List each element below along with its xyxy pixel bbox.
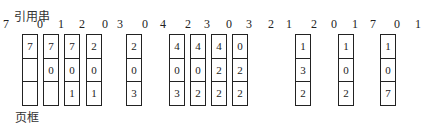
reference-item: 0 <box>391 17 403 32</box>
frame-column: 422 <box>211 34 227 106</box>
frame-cell: 0 <box>233 35 247 58</box>
frame-cell: 0 <box>87 58 101 82</box>
frame-cell: 7 <box>44 35 58 58</box>
frame-cell: 0 <box>65 58 79 82</box>
frame-column: 203 <box>126 34 142 106</box>
frame-column: 7 <box>22 34 38 106</box>
frame-cell: 3 <box>170 81 184 106</box>
frame-column: 022 <box>232 34 248 106</box>
page-frame-label: 页框 <box>15 108 39 125</box>
reference-item: 3 <box>201 17 213 32</box>
frame-cell <box>44 81 58 106</box>
reference-item: 1 <box>55 17 67 32</box>
frame-column: 132 <box>295 34 311 106</box>
reference-item: 1 <box>283 17 295 32</box>
frame-cell: 2 <box>212 58 226 82</box>
reference-item: 2 <box>76 17 88 32</box>
frame-cell: 1 <box>339 35 353 58</box>
frame-cell: 1 <box>65 81 79 106</box>
frame-cell: 4 <box>170 35 184 58</box>
reference-item: 7 <box>367 17 379 32</box>
frame-cell: 0 <box>191 58 205 82</box>
frame-column: 403 <box>169 34 185 106</box>
frame-cell: 2 <box>127 35 141 58</box>
reference-item: 0 <box>34 17 46 32</box>
reference-item: 0 <box>223 17 235 32</box>
reference-item: 3 <box>243 17 255 32</box>
reference-item: 2 <box>265 17 277 32</box>
frame-cell: 1 <box>381 35 395 58</box>
frame-cell <box>23 58 37 82</box>
frame-cell: 7 <box>23 35 37 58</box>
reference-item: 1 <box>412 17 424 32</box>
frame-cell: 7 <box>65 35 79 58</box>
reference-item: 2 <box>182 17 194 32</box>
frame-cell: 2 <box>212 81 226 106</box>
frame-cell: 2 <box>233 58 247 82</box>
frame-cell: 4 <box>212 35 226 58</box>
frame-cell: 0 <box>170 58 184 82</box>
frame-cell: 7 <box>381 81 395 106</box>
frame-cell: 2 <box>191 81 205 106</box>
reference-item: 4 <box>157 17 169 32</box>
frame-cell: 2 <box>296 81 310 106</box>
reference-item: 0 <box>99 17 111 32</box>
frame-cell: 0 <box>339 58 353 82</box>
reference-item: 0 <box>139 17 151 32</box>
reference-item: 2 <box>308 17 320 32</box>
frame-cell: 0 <box>381 58 395 82</box>
frame-cell: 2 <box>233 81 247 106</box>
reference-item: 7 <box>0 17 12 32</box>
frame-column: 701 <box>64 34 80 106</box>
reference-item: 0 <box>328 17 340 32</box>
frame-column: 70 <box>43 34 59 106</box>
frame-cell: 1 <box>87 81 101 106</box>
frame-cell <box>23 81 37 106</box>
frame-cell: 1 <box>296 35 310 58</box>
frame-column: 201 <box>86 34 102 106</box>
frame-cell: 2 <box>339 81 353 106</box>
frame-cell: 3 <box>127 81 141 106</box>
frame-cell: 2 <box>87 35 101 58</box>
frame-cell: 3 <box>296 58 310 82</box>
frame-cell: 4 <box>191 35 205 58</box>
reference-item: 1 <box>349 17 361 32</box>
frame-cell: 0 <box>44 58 58 82</box>
frame-cell: 0 <box>127 58 141 82</box>
reference-item: 3 <box>114 17 126 32</box>
frame-column: 107 <box>380 34 396 106</box>
frame-column: 102 <box>338 34 354 106</box>
frame-column: 402 <box>190 34 206 106</box>
